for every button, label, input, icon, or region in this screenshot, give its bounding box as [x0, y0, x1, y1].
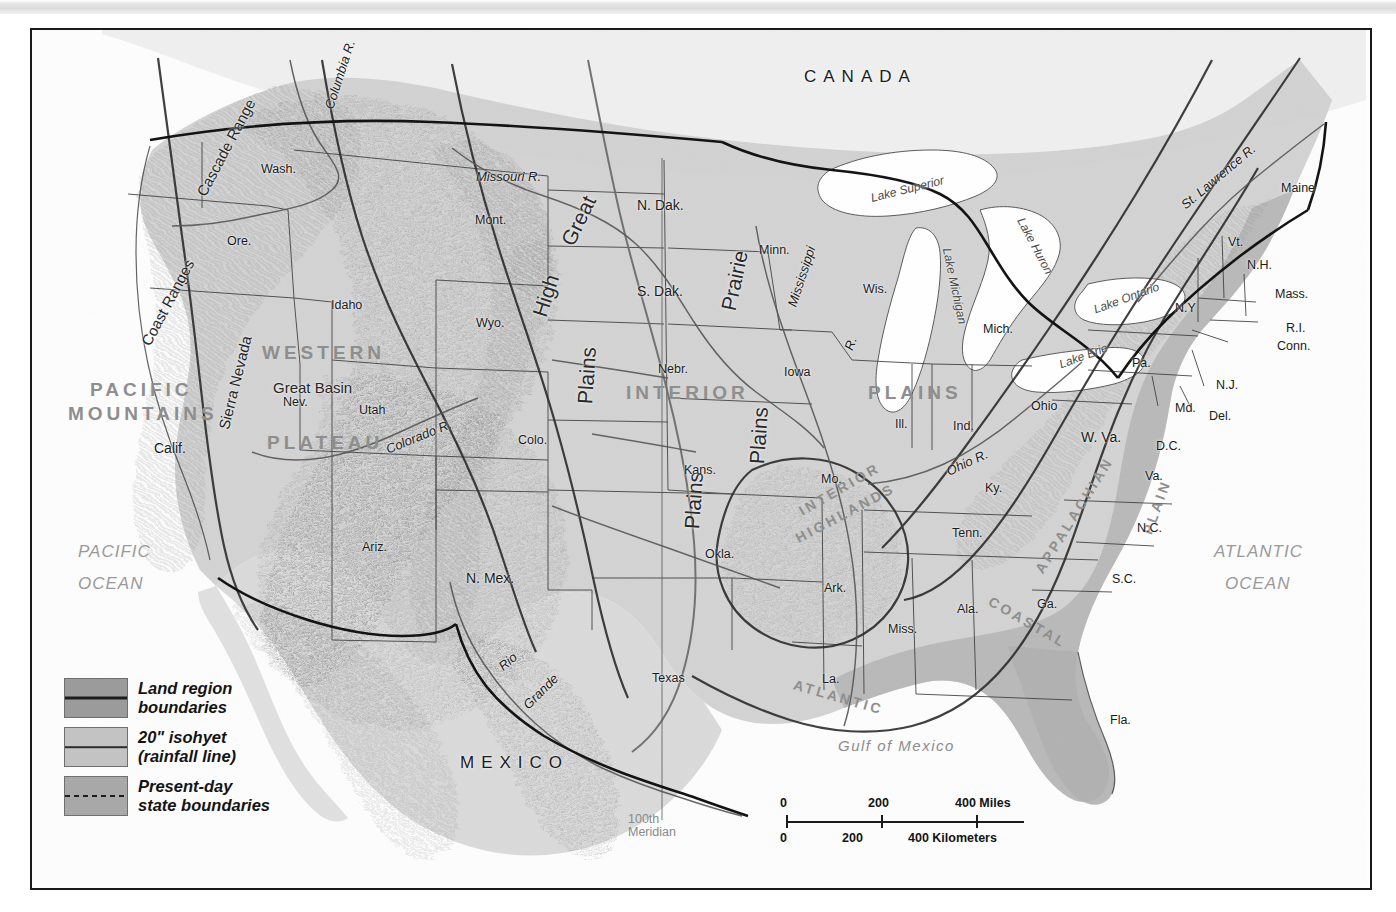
region-label-0: PACIFIC	[90, 380, 193, 399]
scanner-band	[0, 0, 1396, 14]
state-label-tenn: Tenn.	[952, 527, 983, 540]
legend-label-0: Land regionboundaries	[138, 679, 232, 717]
state-label-ky: Ky.	[985, 482, 1002, 495]
map-legend: Land regionboundaries20" isohyet(rainfal…	[64, 678, 332, 825]
scale-miles-end: 400 Miles	[955, 796, 1011, 810]
scale-km-labels: 0 200 400 Kilometers	[780, 831, 1030, 847]
state-label-kans: Kans.	[684, 464, 716, 477]
state-label-va: Va.	[1145, 470, 1163, 483]
scale-miles-mid: 200	[868, 796, 889, 810]
state-label-nebr: Nebr.	[658, 363, 688, 376]
state-label-ny: N.Y	[1175, 302, 1196, 315]
legend-swatch-2	[64, 776, 128, 816]
state-label-ndak: N. Dak.	[637, 198, 684, 212]
scale-bar: 0 200 400 Miles 0 200 400 Kilometers	[780, 796, 1030, 847]
state-label-calif: Calif.	[154, 441, 186, 455]
legend-label-1: 20" isohyet(rainfall line)	[138, 728, 236, 766]
legend-label-2: Present-daystate boundaries	[138, 777, 270, 815]
legend-item-1: 20" isohyet(rainfall line)	[64, 727, 332, 767]
state-label-ariz: Ariz.	[362, 541, 387, 554]
physical-label-9: Plains	[681, 471, 706, 530]
scale-km-start: 0	[780, 831, 787, 845]
state-label-ind: Ind.	[953, 420, 974, 433]
state-label-wash: Wash.	[261, 163, 296, 176]
scale-miles-labels: 0 200 400 Miles	[780, 796, 1030, 812]
state-label-ri: R.I.	[1286, 322, 1305, 335]
region-label-3: PLATEAU	[267, 433, 383, 452]
state-label-texas: Texas	[652, 672, 685, 685]
state-label-mo: Mo.	[821, 473, 842, 486]
state-label-ill: Ill.	[895, 418, 908, 431]
legend-swatch-1	[64, 727, 128, 767]
state-label-mass: Mass.	[1275, 288, 1308, 301]
gulf-of-mexico-label: Gulf of Mexico	[838, 738, 955, 753]
ocean-label-0: PACIFIC	[78, 543, 151, 560]
state-label-minn: Minn.	[759, 244, 790, 257]
state-label-nc: N.C.	[1137, 522, 1162, 535]
river-label-1: Missouri R.	[476, 170, 541, 183]
region-label-2: WESTERN	[262, 343, 385, 362]
state-label-sdak: S. Dak.	[637, 284, 683, 298]
legend-swatch-0	[64, 678, 128, 718]
legend-item-0: Land regionboundaries	[64, 678, 332, 718]
state-label-wyo: Wyo.	[476, 317, 504, 330]
state-label-ore: Ore.	[227, 235, 251, 248]
scale-rule	[780, 815, 1030, 828]
state-label-okla: Okla.	[705, 548, 734, 561]
scale-km-mid: 200	[842, 831, 863, 845]
meridian-label: 100thMeridian	[628, 813, 676, 838]
region-label-5: PLAINS	[868, 383, 962, 402]
state-label-ga: Ga.	[1037, 598, 1057, 611]
state-label-nmex: N. Mex.	[466, 571, 514, 585]
ocean-label-1: OCEAN	[78, 575, 143, 592]
state-label-dc: D.C.	[1156, 440, 1181, 453]
scale-miles-start: 0	[780, 796, 787, 810]
state-label-wva: W. Va.	[1081, 430, 1121, 444]
state-label-wis: Wis.	[863, 283, 887, 296]
state-label-sc: S.C.	[1112, 573, 1136, 586]
state-label-la: La.	[822, 673, 839, 686]
region-label-4: INTERIOR	[626, 383, 749, 402]
state-label-maine: Maine	[1281, 182, 1315, 195]
region-label-1: MOUNTAINS	[68, 404, 218, 423]
state-label-miss: Miss.	[888, 623, 917, 636]
physical-label-7: Plains	[574, 346, 599, 405]
map-frame: CANADAMEXICOPACIFICOCEANATLANTICOCEANGul…	[30, 28, 1372, 890]
map-canvas: CANADAMEXICOPACIFICOCEANATLANTICOCEANGul…	[32, 30, 1370, 888]
state-label-nev: Nev.	[283, 396, 308, 409]
state-label-fla: Fla.	[1110, 714, 1131, 727]
map-page: CANADAMEXICOPACIFICOCEANATLANTICOCEANGul…	[0, 0, 1396, 912]
state-label-vt: Vt.	[1228, 236, 1243, 249]
state-label-ala: Ala.	[957, 603, 979, 616]
country-label-mexico: MEXICO	[460, 754, 569, 771]
scale-km-end: 400 Kilometers	[908, 831, 997, 845]
state-label-ark: Ark.	[824, 582, 846, 595]
state-label-mont: Mont.	[475, 214, 506, 227]
state-label-nj: N.J.	[1216, 379, 1238, 392]
state-label-del: Del.	[1209, 410, 1231, 423]
legend-item-2: Present-daystate boundaries	[64, 776, 332, 816]
ocean-label-3: OCEAN	[1225, 575, 1290, 592]
state-label-md: Md.	[1175, 402, 1196, 415]
country-label-canada: CANADA	[804, 68, 917, 85]
ocean-label-2: ATLANTIC	[1214, 543, 1303, 560]
state-label-iowa: Iowa	[784, 366, 810, 379]
physical-label-8: Plains	[746, 406, 771, 465]
state-label-nh: N.H.	[1247, 259, 1272, 272]
state-label-conn: Conn.	[1277, 340, 1310, 353]
state-label-mich: Mich.	[983, 323, 1013, 336]
state-label-colo: Colo.	[518, 434, 547, 447]
physical-label-0: Great Basin	[273, 380, 352, 395]
state-label-pa: Pa.	[1132, 357, 1151, 370]
state-label-utah: Utah	[359, 404, 385, 417]
state-label-idaho: Idaho	[331, 299, 362, 312]
state-label-ohio: Ohio	[1031, 400, 1057, 413]
